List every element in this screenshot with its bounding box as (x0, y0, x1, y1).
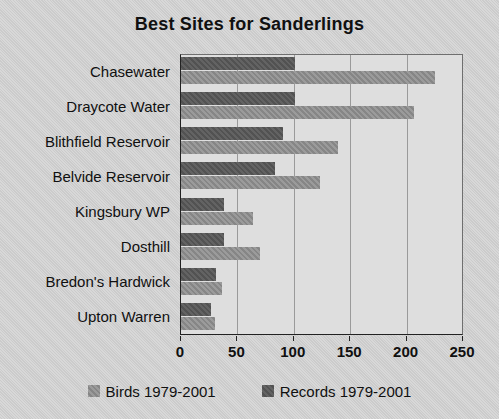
category-label: Draycote Water (66, 99, 170, 115)
plot-area (180, 54, 463, 335)
chart-legend: Birds 1979-2001 Records 1979-2001 (0, 378, 499, 404)
x-tick-label: 250 (449, 343, 474, 360)
x-tick-label: 150 (337, 343, 362, 360)
bar-records (181, 162, 275, 175)
bar-birds (181, 282, 222, 295)
bar-records (181, 92, 295, 105)
chart-container: Best Sites for Sanderlings ChasewaterDra… (0, 0, 499, 419)
category-label: Belvide Reservoir (52, 169, 170, 185)
bar-records (181, 198, 224, 211)
bar-records (181, 233, 224, 246)
tick-mark-0 (180, 336, 181, 341)
records-swatch-icon (262, 385, 274, 397)
legend-item-records: Records 1979-2001 (262, 383, 412, 400)
tick-mark-250 (462, 336, 463, 341)
bar-birds (181, 212, 253, 225)
bar-records (181, 303, 211, 316)
tick-mark-100 (293, 336, 294, 341)
bar-records (181, 268, 216, 281)
tick-mark-50 (236, 336, 237, 341)
chart-title: Best Sites for Sanderlings (0, 14, 499, 35)
bar-records (181, 127, 283, 140)
bar-group (181, 196, 462, 231)
bar-birds (181, 176, 320, 189)
bar-group (181, 301, 462, 336)
category-label: Chasewater (90, 64, 170, 80)
category-label: Upton Warren (77, 309, 170, 325)
category-label: Blithfield Reservoir (45, 134, 170, 150)
bar-birds (181, 106, 414, 119)
x-axis-tick-marks (180, 336, 463, 342)
category-label: Bredon's Hardwick (45, 274, 170, 290)
x-tick-label: 200 (393, 343, 418, 360)
legend-label-records: Records 1979-2001 (280, 383, 412, 400)
bar-birds (181, 317, 215, 330)
x-tick-label: 100 (280, 343, 305, 360)
x-axis-tick-labels: 050100150200250 (0, 343, 499, 363)
bar-birds (181, 141, 338, 154)
x-tick-label: 50 (228, 343, 245, 360)
bar-records (181, 57, 295, 70)
bar-group (181, 160, 462, 195)
bar-group (181, 125, 462, 160)
bars-layer (181, 55, 462, 334)
tick-mark-200 (406, 336, 407, 341)
y-axis-category-labels: ChasewaterDraycote WaterBlithfield Reser… (0, 54, 176, 335)
bar-group (181, 90, 462, 125)
bar-group (181, 55, 462, 90)
legend-item-birds: Birds 1979-2001 (88, 383, 216, 400)
bar-birds (181, 71, 435, 84)
bar-group (181, 231, 462, 266)
tick-mark-150 (349, 336, 350, 341)
birds-swatch-icon (88, 385, 100, 397)
bar-birds (181, 247, 260, 260)
x-tick-label: 0 (176, 343, 184, 360)
bar-group (181, 266, 462, 301)
category-label: Kingsbury WP (75, 204, 170, 220)
legend-label-birds: Birds 1979-2001 (106, 383, 216, 400)
category-label: Dosthill (121, 239, 170, 255)
